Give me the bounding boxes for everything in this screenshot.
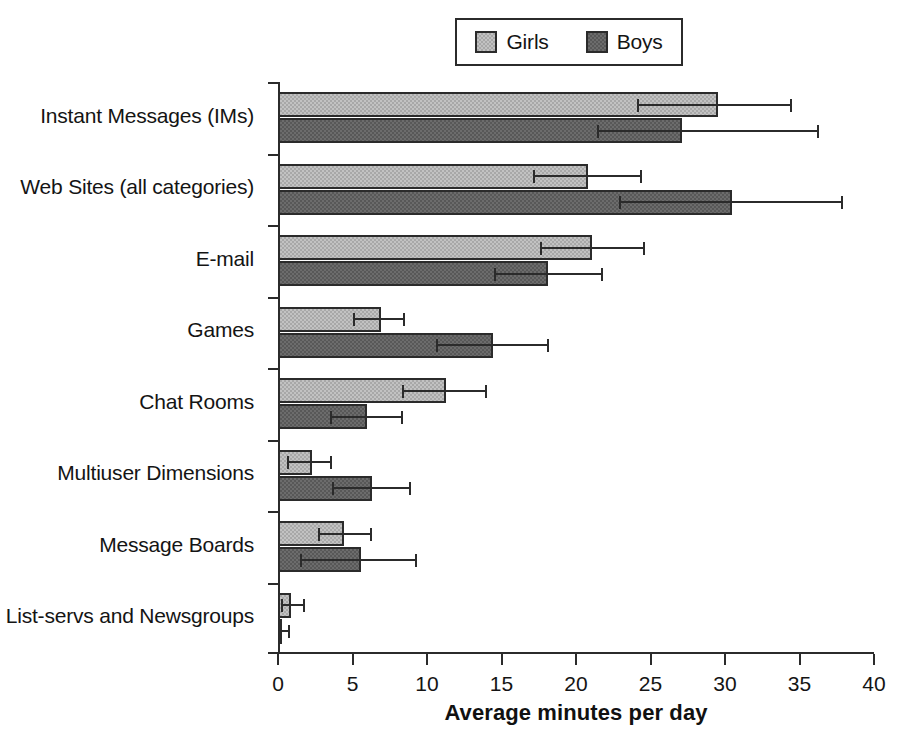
error-bar-line [619,201,843,203]
error-bar-cap [841,196,843,209]
x-axis-tick [575,654,577,665]
x-axis-tick-label: 25 [639,672,662,696]
error-bar-cap [640,170,642,183]
error-bar-line [637,104,792,106]
error-bar-line [597,130,819,132]
x-axis-tick-label: 35 [788,672,811,696]
error-bar-line [300,559,416,561]
x-axis-tick [650,654,652,665]
y-axis-category-label: List-servs and Newsgroups [6,604,254,628]
error-bar-cap [409,482,411,495]
error-bar-cap [415,554,417,567]
plot-area: 0510152025303540 [278,82,874,654]
error-bar-cap [330,411,332,424]
error-bar-line [533,175,642,177]
y-axis-category-label: Message Boards [99,533,254,557]
x-axis-tick-label: 15 [490,672,513,696]
error-bar-cap [287,456,289,469]
error-bar-cap [330,456,332,469]
error-bar-cap [643,242,645,255]
bar-chart: Girls Boys Instant Messages (IMs)Web Sit… [0,0,910,751]
y-axis-tick [268,225,278,227]
legend-label-boys: Boys [617,30,663,54]
x-axis-tick [724,654,726,665]
error-bar-cap [817,125,819,138]
chart-legend: Girls Boys [455,18,683,66]
error-bar-line [436,344,549,346]
error-bar-cap [436,339,438,352]
error-bar-cap [540,242,542,255]
error-bar-cap [288,625,290,638]
error-bar-cap [303,599,305,612]
legend-label-girls: Girls [506,30,548,54]
error-bar-line [318,533,372,535]
error-bar-cap [494,268,496,281]
x-axis-tick [873,654,875,665]
x-axis-tick-label: 20 [564,672,587,696]
error-bar-line [330,416,403,418]
error-bar-cap [790,99,792,112]
y-axis-tick [268,652,278,654]
legend-swatch-boys [586,31,608,53]
error-bar-cap [403,313,405,326]
x-axis-tick-label: 0 [272,672,284,696]
x-axis-title: Average minutes per day [278,700,874,726]
x-axis-tick-label: 40 [862,672,885,696]
y-axis-category-labels: Instant Messages (IMs)Web Sites (all cat… [0,82,268,654]
x-axis-tick-label: 10 [415,672,438,696]
error-bar-cap [485,385,487,398]
error-bar-cap [353,313,355,326]
error-bar-cap [601,268,603,281]
error-bar-cap [300,554,302,567]
x-axis-tick [277,654,279,665]
error-bar-cap [370,528,372,541]
y-axis-tick [268,368,278,370]
legend-swatch-girls [475,31,497,53]
error-bar-cap [547,339,549,352]
y-axis-tick [268,82,278,84]
x-axis-tick [501,654,503,665]
legend-entry-boys: Boys [586,30,663,54]
error-bar-cap [401,411,403,424]
error-bar-cap [279,625,281,638]
x-axis-tick [352,654,354,665]
error-bar-cap [281,599,283,612]
error-bar-line [540,247,644,249]
y-axis-category-label: E-mail [196,247,254,271]
y-axis-tick [268,154,278,156]
y-axis-category-label: Chat Rooms [139,390,254,414]
y-axis-tick [268,583,278,585]
legend-entry-girls: Girls [475,30,548,54]
error-bar-cap [402,385,404,398]
error-bar-line [353,318,405,320]
error-bar-cap [597,125,599,138]
error-bar-cap [318,528,320,541]
y-axis-category-label: Instant Messages (IMs) [40,104,254,128]
error-bar-line [287,461,332,463]
y-axis-tick [268,511,278,513]
error-bar-line [281,604,305,606]
error-bar-line [494,273,603,275]
y-axis-category-label: Games [187,318,254,342]
x-axis-tick-label: 5 [347,672,359,696]
error-bar-line [402,390,487,392]
x-axis-tick [426,654,428,665]
error-bar-line [332,487,411,489]
error-bar-cap [619,196,621,209]
y-axis-category-label: Web Sites (all categories) [20,175,254,199]
y-axis-tick [268,440,278,442]
error-bar-cap [533,170,535,183]
y-axis-tick [268,297,278,299]
x-axis-tick [799,654,801,665]
x-axis-tick-label: 30 [713,672,736,696]
y-axis-category-label: Multiuser Dimensions [57,461,254,485]
error-bar-cap [332,482,334,495]
error-bar-cap [637,99,639,112]
